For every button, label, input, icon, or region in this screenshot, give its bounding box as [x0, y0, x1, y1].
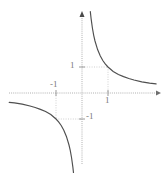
- hyperbola-curves: [9, 12, 156, 173]
- y-axis-tick-label-1: 1: [70, 61, 75, 70]
- x-axis-arrowhead: [156, 91, 161, 96]
- y-axis-tick-label-neg1: -1: [86, 112, 94, 121]
- plot-canvas: [0, 0, 163, 173]
- x-axis-tick-label-1: 1: [105, 96, 110, 105]
- function-plot: 1 -1 -1 1: [0, 0, 163, 173]
- axes: [9, 11, 161, 164]
- curve-branch-negative: [9, 102, 73, 173]
- curve-branch-positive: [90, 12, 156, 84]
- y-axis-arrowhead: [80, 11, 85, 17]
- x-axis-tick-label-neg1: -1: [50, 80, 58, 89]
